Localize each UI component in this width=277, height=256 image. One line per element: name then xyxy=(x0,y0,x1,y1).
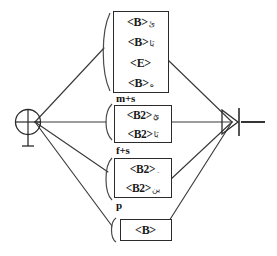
entry-mark: ئ xyxy=(149,19,155,28)
entry-token: <B> xyxy=(128,35,149,51)
group-fs-box[interactable]: <B2>ِ <B2>ين xyxy=(114,158,172,198)
entry-row[interactable]: <B>يَا xyxy=(114,33,168,54)
group-label-p: p xyxy=(116,199,122,211)
edge-start-to-fs xyxy=(35,122,108,172)
entry-row[interactable]: <E> xyxy=(114,53,168,74)
brace-ms xyxy=(106,104,112,140)
group-ms-box[interactable]: <B2>يُ <B2>يَا xyxy=(114,105,172,143)
edge-start-to-top xyxy=(35,48,104,122)
diagram-canvas: <B>ئ <B>يَا <E> <B>ه m+s <B2>يُ <B2>يَا … xyxy=(0,0,277,256)
entry-row[interactable]: <B2>يُ xyxy=(115,106,171,125)
entry-token: <B2> xyxy=(128,127,153,140)
entry-row[interactable]: <B>ه xyxy=(114,74,168,95)
entry-mark: يُ xyxy=(153,112,159,121)
entry-token: <E> xyxy=(130,55,151,71)
entry-mark: يَا xyxy=(154,130,159,139)
entry-token: <B2> xyxy=(127,109,152,122)
entry-mark: ه xyxy=(150,80,154,89)
group-label-ms: m+s xyxy=(116,92,135,104)
brace-p xyxy=(112,218,117,242)
edge-start-to-p xyxy=(35,122,112,226)
group-label-fs: f+s xyxy=(116,144,130,156)
entry-mark: ين xyxy=(152,185,160,194)
entry-row[interactable]: <B>ئ xyxy=(114,12,168,33)
group-p-box[interactable]: <B> xyxy=(120,219,172,241)
entry-row[interactable]: <B2>ين xyxy=(115,179,171,199)
entry-token: <B> xyxy=(128,76,149,92)
entry-row[interactable]: <B2>يَا xyxy=(115,125,171,144)
entry-row[interactable]: <B> xyxy=(121,220,171,240)
entry-token: <B2> xyxy=(130,162,155,175)
entry-token: <B> xyxy=(135,222,156,238)
group-top-box[interactable]: <B>ئ <B>يَا <E> <B>ه xyxy=(113,11,169,93)
brace-top xyxy=(103,13,110,91)
entry-token: <B> xyxy=(127,14,148,30)
entry-token: <B2> xyxy=(126,182,151,195)
start-node-glyph xyxy=(16,110,41,147)
entry-row[interactable]: <B2>ِ xyxy=(115,159,171,179)
entry-mark: يَا xyxy=(150,39,155,48)
brace-fs xyxy=(106,158,112,200)
